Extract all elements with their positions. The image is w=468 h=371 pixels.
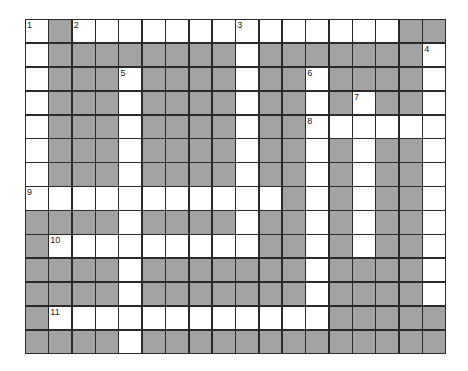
answer-cell[interactable] bbox=[236, 44, 258, 66]
answer-cell[interactable] bbox=[26, 44, 48, 66]
answer-cell[interactable] bbox=[26, 116, 48, 138]
answer-cell[interactable] bbox=[330, 20, 352, 42]
answer-cell[interactable] bbox=[306, 283, 328, 305]
answer-cell[interactable] bbox=[306, 139, 328, 161]
answer-cell[interactable] bbox=[166, 307, 188, 329]
answer-cell[interactable]: 9 bbox=[26, 187, 48, 209]
answer-cell[interactable] bbox=[236, 307, 258, 329]
answer-cell[interactable] bbox=[96, 20, 118, 42]
answer-cell[interactable] bbox=[119, 259, 141, 281]
answer-cell[interactable] bbox=[119, 283, 141, 305]
answer-cell[interactable] bbox=[166, 20, 188, 42]
answer-cell[interactable] bbox=[96, 187, 118, 209]
answer-cell[interactable] bbox=[119, 139, 141, 161]
answer-cell[interactable] bbox=[73, 187, 95, 209]
answer-cell[interactable] bbox=[236, 235, 258, 257]
answer-cell[interactable] bbox=[26, 68, 48, 90]
answer-cell[interactable] bbox=[73, 307, 95, 329]
answer-cell[interactable] bbox=[306, 259, 328, 281]
answer-cell[interactable] bbox=[143, 20, 165, 42]
answer-cell[interactable] bbox=[423, 187, 445, 209]
answer-cell[interactable] bbox=[213, 307, 235, 329]
answer-cell[interactable] bbox=[236, 68, 258, 90]
answer-cell[interactable] bbox=[190, 307, 212, 329]
answer-cell[interactable] bbox=[236, 211, 258, 233]
answer-cell[interactable] bbox=[353, 235, 375, 257]
answer-cell[interactable] bbox=[119, 331, 141, 353]
answer-cell[interactable] bbox=[190, 20, 212, 42]
answer-cell[interactable]: 6 bbox=[306, 68, 328, 90]
answer-cell[interactable]: 8 bbox=[306, 116, 328, 138]
answer-cell[interactable] bbox=[353, 211, 375, 233]
answer-cell[interactable] bbox=[143, 187, 165, 209]
answer-cell[interactable] bbox=[26, 92, 48, 114]
answer-cell[interactable] bbox=[306, 163, 328, 185]
answer-cell[interactable] bbox=[353, 139, 375, 161]
answer-cell[interactable] bbox=[306, 187, 328, 209]
answer-cell[interactable] bbox=[236, 163, 258, 185]
answer-cell[interactable] bbox=[423, 92, 445, 114]
answer-cell[interactable] bbox=[119, 163, 141, 185]
answer-cell[interactable]: 4 bbox=[423, 44, 445, 66]
answer-cell[interactable] bbox=[423, 283, 445, 305]
answer-cell[interactable] bbox=[119, 20, 141, 42]
answer-cell[interactable] bbox=[353, 187, 375, 209]
answer-cell[interactable] bbox=[353, 116, 375, 138]
answer-cell[interactable] bbox=[73, 235, 95, 257]
answer-cell[interactable] bbox=[306, 92, 328, 114]
answer-cell[interactable] bbox=[166, 187, 188, 209]
answer-cell[interactable] bbox=[283, 307, 305, 329]
answer-cell[interactable] bbox=[119, 307, 141, 329]
answer-cell[interactable] bbox=[96, 307, 118, 329]
answer-cell[interactable] bbox=[306, 211, 328, 233]
answer-cell[interactable] bbox=[26, 139, 48, 161]
answer-cell[interactable] bbox=[283, 20, 305, 42]
answer-cell[interactable]: 5 bbox=[119, 68, 141, 90]
answer-cell[interactable] bbox=[423, 211, 445, 233]
answer-cell[interactable] bbox=[96, 235, 118, 257]
answer-cell[interactable] bbox=[119, 116, 141, 138]
answer-cell[interactable] bbox=[213, 20, 235, 42]
answer-cell[interactable] bbox=[119, 235, 141, 257]
answer-cell[interactable] bbox=[260, 20, 282, 42]
answer-cell[interactable] bbox=[423, 139, 445, 161]
answer-cell[interactable] bbox=[376, 116, 398, 138]
answer-cell[interactable] bbox=[190, 187, 212, 209]
answer-cell[interactable] bbox=[423, 68, 445, 90]
answer-cell[interactable] bbox=[190, 235, 212, 257]
answer-cell[interactable] bbox=[26, 163, 48, 185]
answer-cell[interactable] bbox=[49, 187, 71, 209]
answer-cell[interactable] bbox=[119, 92, 141, 114]
answer-cell[interactable]: 7 bbox=[353, 92, 375, 114]
answer-cell[interactable] bbox=[376, 20, 398, 42]
answer-cell[interactable]: 2 bbox=[73, 20, 95, 42]
answer-cell[interactable] bbox=[306, 235, 328, 257]
answer-cell[interactable]: 10 bbox=[49, 235, 71, 257]
answer-cell[interactable] bbox=[260, 187, 282, 209]
answer-cell[interactable] bbox=[353, 163, 375, 185]
answer-cell[interactable] bbox=[119, 187, 141, 209]
answer-cell[interactable] bbox=[166, 235, 188, 257]
answer-cell[interactable] bbox=[236, 92, 258, 114]
answer-cell[interactable]: 11 bbox=[49, 307, 71, 329]
answer-cell[interactable] bbox=[306, 307, 328, 329]
answer-cell[interactable] bbox=[236, 139, 258, 161]
answer-cell[interactable] bbox=[236, 116, 258, 138]
answer-cell[interactable] bbox=[423, 259, 445, 281]
answer-cell[interactable] bbox=[423, 235, 445, 257]
answer-cell[interactable]: 1 bbox=[26, 20, 48, 42]
answer-cell[interactable] bbox=[119, 211, 141, 233]
answer-cell[interactable] bbox=[236, 187, 258, 209]
answer-cell[interactable] bbox=[423, 116, 445, 138]
answer-cell[interactable] bbox=[260, 307, 282, 329]
answer-cell[interactable]: 3 bbox=[236, 20, 258, 42]
answer-cell[interactable] bbox=[423, 163, 445, 185]
answer-cell[interactable] bbox=[306, 20, 328, 42]
answer-cell[interactable] bbox=[213, 187, 235, 209]
answer-cell[interactable] bbox=[143, 235, 165, 257]
answer-cell[interactable] bbox=[213, 235, 235, 257]
answer-cell[interactable] bbox=[400, 116, 422, 138]
answer-cell[interactable] bbox=[353, 20, 375, 42]
answer-cell[interactable] bbox=[330, 116, 352, 138]
answer-cell[interactable] bbox=[143, 307, 165, 329]
